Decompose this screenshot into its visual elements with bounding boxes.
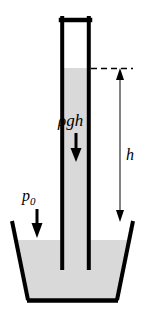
tube-vacuum-region [63,20,88,68]
hydrostatic-pressure-label: ρgh [57,111,83,130]
atmospheric-pressure-symbol: p [21,187,30,205]
height-dimension-arrowhead-top [116,68,124,80]
tube-liquid-fill [63,68,88,270]
height-label: h [126,146,134,163]
figure-canvas: ρgh h p0 [0,0,145,322]
atmospheric-pressure-arrowhead [32,223,43,238]
height-dimension-arrowhead-bottom [116,210,124,222]
atmospheric-pressure-label: p0 [21,187,36,207]
atmospheric-pressure-subscript: 0 [30,195,36,207]
barometer-figure: ρgh h p0 [0,0,145,322]
beaker-liquid-fill [16,240,130,299]
